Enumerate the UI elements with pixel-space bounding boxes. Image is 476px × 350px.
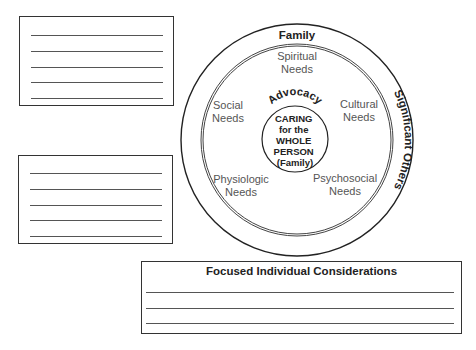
spiritual-needs-label: SpiritualNeeds	[277, 50, 317, 75]
cultural-needs-label: CulturalNeeds	[340, 98, 378, 123]
physiologic-needs-label: PhysiologicNeeds	[213, 173, 269, 198]
whole-person-diagram: Family Significant Others SpiritualNeeds…	[0, 0, 476, 350]
psychosocial-needs-label: PsychosocialNeeds	[313, 172, 377, 197]
center-text: CARING for the WHOLE PERSON (Family)	[274, 113, 317, 168]
family-label: Family	[279, 29, 316, 41]
significant-others-label: Significant Others	[392, 88, 415, 192]
social-needs-label: SocialNeeds	[212, 99, 244, 124]
advocacy-label: Advocacy	[265, 85, 325, 107]
